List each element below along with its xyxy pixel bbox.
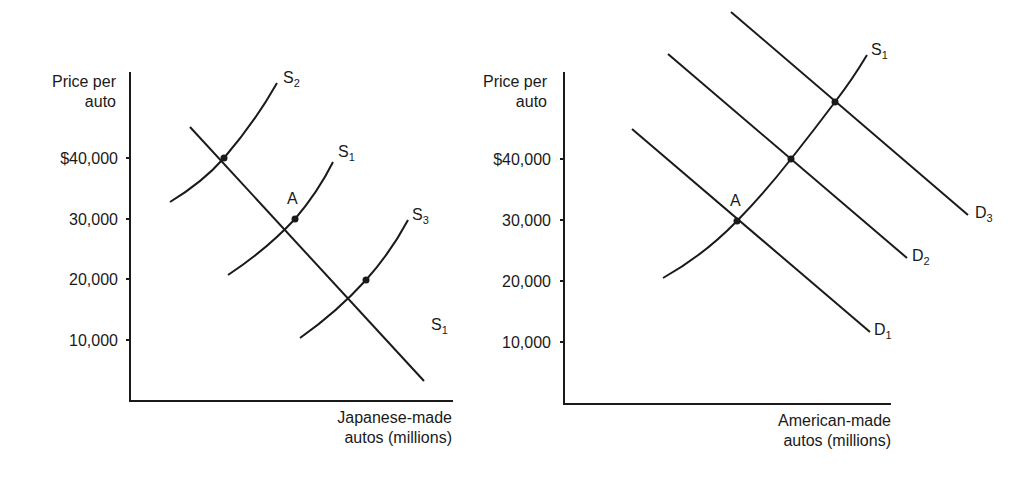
right-tick-label-40000: $40,000 [493, 151, 551, 168]
left-ylabel-line2: auto [85, 93, 116, 110]
left-tick-label-40000: $40,000 [60, 150, 118, 167]
right-ylabel-line2: auto [516, 93, 547, 110]
left-supply-curve-s2 [170, 83, 277, 202]
left-supply-curve-s3 [300, 220, 408, 338]
left-xlabel-line1: Japanese-made [337, 409, 452, 426]
left-s3-label: S3 [412, 206, 429, 226]
figure: Price per auto $40,000 30,000 20,000 10,… [0, 0, 1031, 477]
right-xlabel-line2: autos (millions) [783, 432, 891, 449]
right-tick-label-30000: 30,000 [502, 212, 551, 229]
left-tick-label-10000: 10,000 [69, 332, 118, 349]
right-equilibrium-point-d2 [788, 156, 795, 163]
left-point-a-label: A [287, 190, 298, 207]
right-xlabel-line1: American-made [778, 412, 891, 429]
left-ylabel-line1: Price per [52, 73, 117, 90]
right-demand-line-d1 [632, 129, 870, 332]
right-tick-label-10000: 10,000 [502, 334, 551, 351]
left-chart: Price per auto $40,000 30,000 20,000 10,… [52, 69, 453, 446]
right-d2-label: D2 [912, 247, 930, 267]
right-chart: Price per auto $40,000 30,000 20,000 10,… [483, 12, 993, 449]
left-tick-label-30000: 30,000 [69, 211, 118, 228]
left-xlabel-line2: autos (millions) [344, 429, 452, 446]
right-equilibrium-point-a [734, 218, 741, 225]
right-ylabel-line1: Price per [483, 73, 548, 90]
left-s1-supply-label: S1 [338, 143, 355, 163]
left-equilibrium-point-20000 [363, 277, 370, 284]
left-equilibrium-point-40000 [221, 155, 228, 162]
right-demand-line-d3 [731, 12, 968, 215]
right-point-a-label: A [730, 192, 741, 209]
right-s1-label: S1 [871, 41, 888, 61]
right-supply-curve-s1 [663, 55, 867, 278]
right-d1-label: D1 [874, 321, 892, 341]
left-s1-line-label: S1 [431, 316, 448, 336]
right-tick-label-20000: 20,000 [502, 273, 551, 290]
left-s2-label: S2 [283, 69, 300, 89]
left-downward-line-s1 [190, 127, 424, 381]
right-d3-label: D3 [975, 204, 993, 224]
right-equilibrium-point-d3 [832, 99, 839, 106]
left-supply-curve-s1 [228, 162, 333, 275]
right-demand-line-d2 [668, 54, 907, 258]
left-tick-label-20000: 20,000 [69, 271, 118, 288]
left-equilibrium-point-a [292, 216, 299, 223]
